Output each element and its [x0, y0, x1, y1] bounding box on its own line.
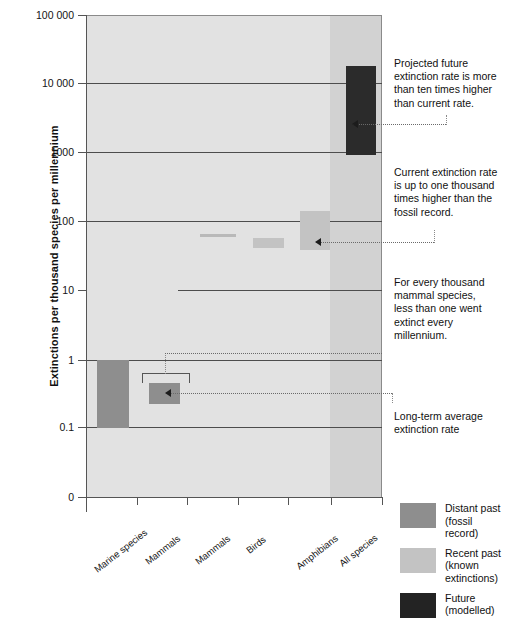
y-tick-label-100: 100 [4, 215, 74, 227]
legend-item-distant-past: Distant past (fossil record) [400, 502, 508, 540]
y-tick-mark [78, 221, 86, 222]
x-tick-mark [288, 497, 289, 505]
annotation-mammals: For every thousand mammal species, less … [394, 276, 486, 342]
x-tick-mark [382, 497, 383, 505]
gridline-1000 [86, 152, 382, 153]
gridline-10000 [86, 83, 382, 84]
y-tick-mark [78, 290, 86, 291]
gridline-100 [86, 221, 382, 222]
x-tick-mark [137, 497, 138, 505]
legend-label-future: Future (modelled) [445, 592, 508, 617]
y-tick-mark [78, 83, 86, 84]
legend-label-distant-past: Distant past (fossil record) [445, 502, 508, 540]
y-tick-mark [78, 152, 86, 153]
leader-future-stem [446, 115, 447, 125]
legend-swatch-future [400, 593, 436, 618]
x-tick-label-amphibians: Amphibians [294, 532, 340, 571]
x-tick-mark [331, 497, 332, 505]
y-tick-mark [78, 497, 86, 498]
legend: Distant past (fossil record) Recent past… [400, 502, 508, 622]
annotation-longterm: Long-term average extinction rate [394, 410, 486, 436]
annotation-current: Current extinction rate is up to one tho… [394, 166, 506, 219]
y-tick-mark [78, 15, 86, 16]
x-tick-label-all-species: All species [337, 532, 380, 569]
x-axis-line [86, 497, 382, 498]
legend-swatch-recent-past [400, 548, 436, 573]
x-tick-label-mammals-2: Mammals [193, 533, 232, 567]
y-tick-label-10: 10 [4, 284, 74, 296]
bar-marine-species-distant-past [97, 360, 129, 428]
y-tick-mark [78, 427, 86, 428]
bar-mammals-recent-past [200, 234, 236, 237]
mammals-bracket [142, 373, 190, 383]
legend-item-future: Future (modelled) [400, 592, 508, 620]
plot-frame-right [381, 15, 382, 497]
y-tick-label-100000: 100 000 [4, 9, 74, 21]
leader-future [353, 124, 446, 125]
y-tick-label-1: 1 [4, 354, 74, 366]
bar-birds-recent-past [253, 238, 284, 248]
y-tick-label-10000: 10 000 [4, 77, 74, 89]
leader-mammals-stem [165, 353, 166, 374]
leader-current-stem [434, 230, 435, 243]
gridline-10-partial [178, 290, 382, 291]
leader-current [316, 242, 434, 243]
leader-mammals [165, 353, 382, 354]
plot-area [86, 15, 382, 497]
y-axis-line [86, 15, 87, 512]
y-tick-label-0: 0 [4, 491, 74, 503]
x-tick-mark [238, 497, 239, 505]
x-tick-label-marine-species: Marine species [92, 527, 149, 575]
plot-frame-top [86, 15, 382, 16]
y-tick-label-0_1: 0.1 [4, 421, 74, 433]
x-tick-label-birds: Birds [244, 534, 268, 556]
annotation-future: Projected future extinction rate is more… [394, 57, 506, 110]
x-tick-mark [187, 497, 188, 505]
x-tick-mark [86, 497, 87, 505]
leader-current-arrow [315, 238, 321, 246]
legend-label-recent-past: Recent past (known extinctions) [445, 547, 508, 585]
y-tick-mark [78, 360, 86, 361]
leader-longterm-stem [392, 393, 393, 403]
y-tick-label-1000: 1000 [4, 146, 74, 158]
leader-longterm [166, 393, 392, 394]
legend-swatch-distant-past [400, 503, 436, 528]
gridline-0_1 [86, 427, 382, 428]
bar-all-species-future [346, 66, 376, 155]
legend-item-recent-past: Recent past (known extinctions) [400, 547, 508, 585]
x-tick-label-mammals-1: Mammals [143, 533, 182, 567]
gridline-1 [86, 360, 382, 361]
leader-future-arrow [352, 120, 358, 128]
leader-longterm-arrow [165, 389, 171, 397]
